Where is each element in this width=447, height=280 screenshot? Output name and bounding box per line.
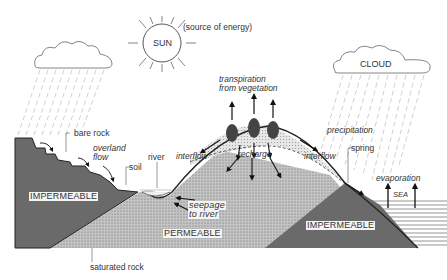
cloud-label: CLOUD: [360, 60, 392, 69]
overland-flow-label-line2: flow: [93, 153, 108, 162]
sun-note-label: (source of energy): [183, 23, 252, 32]
hydrological-cycle-diagram: SUN (source of energy) CLOUD transpirati…: [0, 0, 447, 280]
rain-left: [18, 70, 104, 135]
soil-label: soil: [129, 163, 142, 172]
diagram-graphics: [0, 0, 447, 280]
spring-label: spring: [351, 144, 374, 153]
bare-rock-label: bare rock: [74, 129, 109, 138]
transpiration-label-line2: from vegetation: [219, 84, 278, 93]
sun-label: SUN: [153, 39, 172, 48]
permeable-label: PERMEABLE: [163, 229, 222, 238]
sea-label: SEA: [393, 190, 408, 199]
seepage-label-line2: to river: [188, 210, 219, 219]
evaporation-label: evaporation: [376, 174, 420, 183]
impermeable-left-label: IMPERMEABLE: [29, 192, 98, 201]
cloud-left-icon: [35, 41, 112, 68]
river-label: river: [148, 153, 165, 162]
precipitation-label: precipitation: [327, 126, 373, 135]
transpiration-arrows: [232, 96, 273, 120]
impermeable-right-label: IMPERMEABLE: [306, 221, 375, 230]
recharge-label: recharge: [238, 150, 272, 159]
interflow-right-label: interflow: [304, 152, 336, 161]
interflow-left-label: interflow: [176, 152, 208, 161]
saturated-rock-label: saturated rock: [90, 263, 144, 272]
